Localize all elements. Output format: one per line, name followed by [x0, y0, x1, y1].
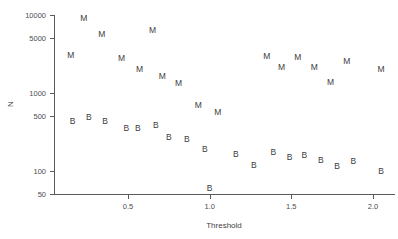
data-point-b: B — [233, 149, 239, 159]
data-point-m: M — [175, 78, 182, 88]
y-tick-label: 500 — [33, 112, 46, 121]
y-tick-label: 5000 — [29, 34, 46, 43]
data-point-m: M — [118, 53, 125, 63]
plot-canvas: 501005001000500010000 0.51.01.52.0 MMMMM… — [0, 0, 398, 239]
x-tick-label: 0.5 — [123, 202, 133, 211]
data-point-m: M — [214, 107, 221, 117]
data-point-m: M — [327, 77, 334, 87]
data-point-m: M — [98, 29, 105, 39]
data-point-b: B — [86, 112, 92, 122]
data-point-b: B — [251, 160, 257, 170]
data-point-b: B — [318, 155, 324, 165]
data-point-b: B — [166, 132, 172, 142]
x-axis-ticks: 0.51.01.52.0 — [123, 195, 378, 212]
data-point-b: B — [334, 161, 340, 171]
data-point-m: M — [159, 71, 166, 81]
data-point-m: M — [294, 52, 301, 62]
data-point-m: M — [149, 25, 156, 35]
y-axis-ticks: 501005001000500010000 — [25, 11, 54, 199]
data-point-m: M — [67, 50, 74, 60]
y-tick-label: 10000 — [25, 11, 46, 20]
data-point-b: B — [271, 147, 277, 157]
data-point-b: B — [135, 123, 141, 133]
data-point-m: M — [195, 100, 202, 110]
x-axis-title: Threshold — [206, 221, 242, 230]
data-point-b: B — [184, 134, 190, 144]
scatter-plot-figure: 501005001000500010000 0.51.01.52.0 MMMMM… — [0, 0, 398, 239]
data-point-b: B — [351, 156, 357, 166]
axes-group — [55, 15, 395, 195]
data-point-m: M — [136, 64, 143, 74]
data-point-m: M — [80, 13, 87, 23]
y-tick-label: 1000 — [29, 89, 46, 98]
data-point-b: B — [287, 152, 293, 162]
y-axis-title: N — [6, 101, 15, 107]
data-point-b: B — [207, 183, 213, 193]
data-point-b: B — [124, 123, 130, 133]
x-tick-label: 2.0 — [368, 202, 378, 211]
x-tick-label: 1.5 — [286, 202, 296, 211]
data-point-b: B — [202, 144, 208, 154]
data-point-b: B — [378, 166, 384, 176]
y-tick-label: 50 — [38, 190, 46, 199]
data-point-m: M — [378, 64, 385, 74]
data-point-b: B — [302, 150, 308, 160]
data-point-b: B — [70, 116, 76, 126]
y-tick-label: 100 — [33, 167, 46, 176]
data-point-m: M — [278, 62, 285, 72]
data-point-m: M — [343, 56, 350, 66]
data-point-m: M — [311, 62, 318, 72]
data-point-b: B — [153, 120, 159, 130]
data-points-group: MMMMMMMMMMMMMMMMMBBBBBBBBBBBBBBBBBBB — [67, 13, 384, 193]
data-point-m: M — [263, 51, 270, 61]
data-point-b: B — [102, 116, 108, 126]
x-tick-label: 1.0 — [204, 202, 214, 211]
